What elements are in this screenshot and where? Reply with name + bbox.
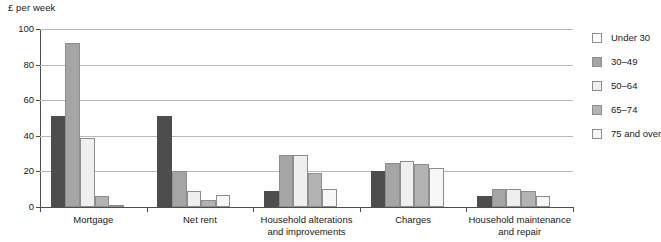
bar [429,168,444,207]
bar [109,205,124,207]
legend-swatch-icon [592,81,602,91]
legend-label: 30–49 [611,56,637,67]
y-tick-label: 40 [8,131,34,141]
bar [492,189,507,207]
bar [322,189,337,207]
axis-baseline [40,207,573,208]
bar-group [360,29,467,207]
bar [308,173,323,207]
bar [400,161,415,207]
plot-area [40,29,573,207]
chart-legend: Under 3030–4950–6465–7475 and over [592,31,658,151]
y-tick-label: 0 [8,202,34,212]
legend-item[interactable]: 75 and over [592,127,658,151]
x-axis-category-label: Net rent [147,214,254,226]
x-axis-category-label: Household alterations and improvements [253,214,360,237]
x-tick-mark [40,207,41,212]
bar [80,138,95,207]
bar [506,189,521,207]
legend-swatch-icon [592,129,602,139]
bar [201,200,216,207]
bar-group [466,29,573,207]
y-tick-label: 80 [8,60,34,70]
legend-swatch-icon [592,57,602,67]
x-axis-category-label: Charges [360,214,467,226]
y-tick-label: 60 [8,95,34,105]
x-tick-mark [466,207,467,212]
bar [51,116,66,207]
bar [187,191,202,207]
y-tick-label: 100 [8,24,34,34]
legend-swatch-icon [592,33,602,43]
bar [477,196,492,207]
bar [172,171,187,207]
bar [293,155,308,207]
legend-item[interactable]: 65–74 [592,103,658,127]
y-tick-label: 20 [8,166,34,176]
x-tick-mark [573,207,574,212]
legend-item[interactable]: 30–49 [592,55,658,79]
legend-label: 75 and over [611,128,661,139]
bar [65,43,80,207]
y-axis-tick-labels: 020406080100 [0,0,34,242]
bar [279,155,294,207]
bar-group [253,29,360,207]
legend-label: 50–64 [611,80,637,91]
bar [414,164,429,207]
x-tick-mark [360,207,361,212]
bar [95,196,110,207]
bar-groups [40,29,573,207]
bar [264,191,279,207]
bar-group [147,29,254,207]
bar-group [40,29,147,207]
bar [371,171,386,207]
x-axis-category-label: Household maintenance and repair [466,214,573,237]
legend-label: 65–74 [611,104,637,115]
bar [157,116,172,207]
legend-item[interactable]: 50–64 [592,79,658,103]
legend-swatch-icon [592,105,602,115]
bar [385,163,400,208]
legend-label: Under 30 [611,32,650,43]
bar [216,195,231,207]
bar [521,191,536,207]
x-axis-category-label: Mortgage [40,214,147,226]
x-tick-mark [147,207,148,212]
legend-item[interactable]: Under 30 [592,31,658,55]
x-tick-mark [253,207,254,212]
bar [536,196,551,207]
